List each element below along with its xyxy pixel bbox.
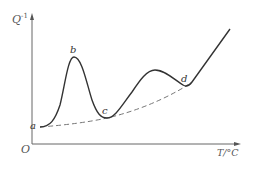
x-axis-label: T/°C bbox=[217, 148, 239, 158]
origin-label: O bbox=[21, 144, 30, 155]
point-label-b: b bbox=[70, 45, 76, 55]
point-label-d: d bbox=[181, 74, 187, 84]
point-label-c: c bbox=[102, 106, 108, 116]
y-axis-label: Q-1 bbox=[12, 13, 28, 25]
internal-friction-curve bbox=[40, 29, 230, 127]
internal-friction-diagram: Q-1 T/°C O a b c d bbox=[0, 0, 256, 169]
background-dashed-curve bbox=[40, 85, 188, 127]
plot-canvas bbox=[0, 0, 256, 169]
x-axis-arrow-icon bbox=[234, 142, 241, 146]
y-axis-arrow-icon bbox=[30, 13, 34, 20]
point-label-a: a bbox=[30, 121, 36, 131]
